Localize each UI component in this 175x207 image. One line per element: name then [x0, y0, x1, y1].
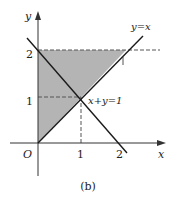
- y-tick-1: 1: [26, 95, 33, 108]
- x-axis-arrow-icon: [157, 140, 166, 146]
- y-axis-arrow-icon: [35, 11, 41, 20]
- coordinate-diagram: y x O 1 2 1 2 y=x x+y=1 (b): [0, 0, 175, 207]
- figure-caption: (b): [80, 180, 96, 193]
- origin-label: O: [23, 148, 32, 161]
- x-axis-label: x: [158, 148, 165, 161]
- y-axis-label: y: [24, 10, 32, 23]
- line-label-y-equals-x: y=x: [130, 21, 151, 32]
- y-tick-2: 2: [26, 48, 33, 61]
- x-tick-1: 1: [77, 148, 84, 161]
- x-tick-2: 2: [116, 148, 123, 161]
- line-label-x-plus-y: x+y=1: [88, 95, 122, 106]
